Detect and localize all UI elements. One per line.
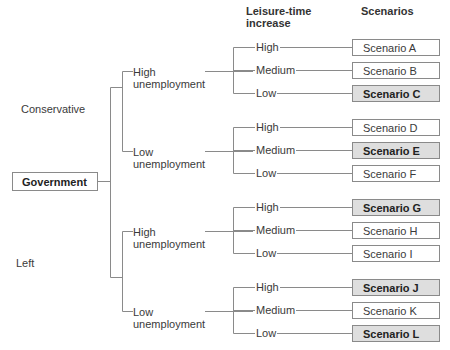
unemployment-level: Low <box>133 146 155 158</box>
header-scenarios: Scenarios <box>361 5 414 17</box>
scenario-a-box: Scenario A <box>352 39 440 56</box>
leisure-level: High <box>255 121 280 133</box>
scenario-b-box: Scenario B <box>352 62 440 79</box>
scenario-d-box: Scenario D <box>352 119 440 136</box>
leisure-level: High <box>255 281 280 293</box>
leisure-level: Medium <box>255 304 296 316</box>
scenario-e-box: Scenario E <box>352 142 440 159</box>
unemployment-suffix: unemployment <box>133 238 205 250</box>
scenario-h-box: Scenario H <box>352 222 440 239</box>
unemployment-suffix: unemployment <box>133 318 205 330</box>
leisure-level: Low <box>255 87 277 99</box>
header-leisure-line1: Leisure-time <box>246 5 311 17</box>
leisure-level: Medium <box>255 64 296 76</box>
unemployment-node: Low unemployment <box>133 306 205 330</box>
leisure-level: High <box>255 201 280 213</box>
unemployment-node: High unemployment <box>133 226 205 250</box>
party-left: Left <box>16 257 34 269</box>
scenario-c-box: Scenario C <box>352 85 440 102</box>
scenario-k-box: Scenario K <box>352 302 440 319</box>
unemployment-suffix: unemployment <box>133 158 205 170</box>
header-leisure: Leisure-time increase <box>246 5 311 29</box>
scenario-l-box: Scenario L <box>352 325 440 342</box>
scenario-g-box: Scenario G <box>352 199 440 216</box>
unemployment-node: Low unemployment <box>133 146 205 170</box>
unemployment-suffix: unemployment <box>133 78 205 90</box>
scenario-i-box: Scenario I <box>352 245 440 262</box>
unemployment-node: High unemployment <box>133 66 205 90</box>
header-leisure-line2: increase <box>246 17 311 29</box>
leisure-level: Low <box>255 327 277 339</box>
party-conservative: Conservative <box>21 103 85 115</box>
leisure-level: High <box>255 41 280 53</box>
scenario-f-box: Scenario F <box>352 165 440 182</box>
leisure-level: Medium <box>255 144 296 156</box>
leisure-level: Medium <box>255 224 296 236</box>
unemployment-level: Low <box>133 306 155 318</box>
leisure-level: Low <box>255 247 277 259</box>
unemployment-level: High <box>133 226 158 238</box>
scenario-j-box: Scenario J <box>352 279 440 296</box>
leisure-level: Low <box>255 167 277 179</box>
unemployment-level: High <box>133 66 158 78</box>
government-node: Government <box>12 172 98 191</box>
